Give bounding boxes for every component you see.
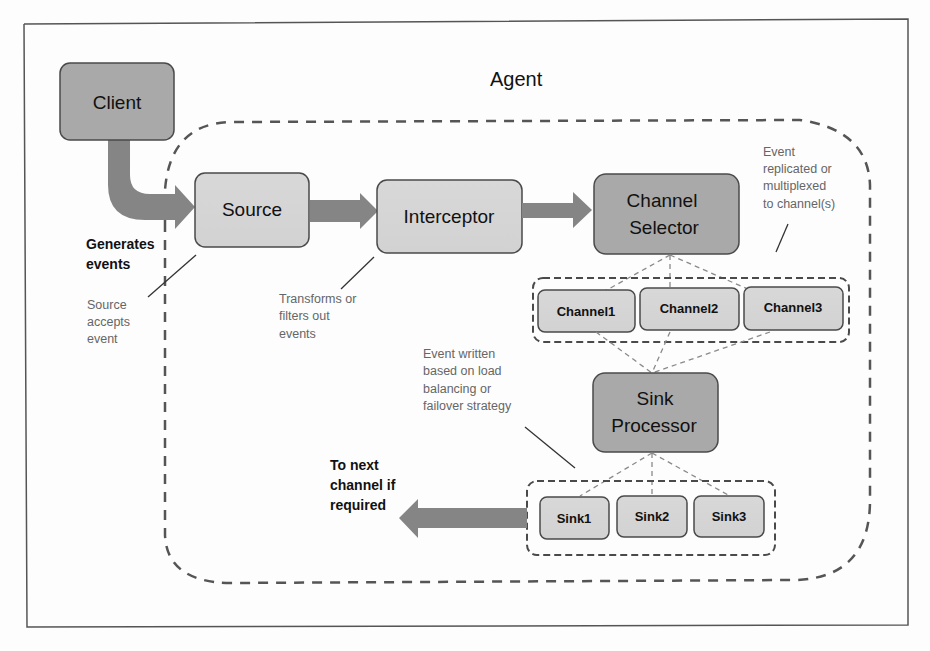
svg-text:events: events	[86, 256, 131, 272]
svg-text:multiplexed: multiplexed	[763, 179, 826, 193]
sink-2-label: Sink2	[635, 509, 670, 524]
to-next-channel-annotation: To next channel if required	[330, 457, 396, 513]
client-label: Client	[93, 92, 142, 113]
svg-text:based on load: based on load	[423, 364, 502, 378]
agent-label: Agent	[490, 68, 543, 90]
generates-events-annotation: Generates events	[86, 236, 155, 272]
sink-processor-label-line2: Processor	[611, 415, 697, 436]
transforms-annotation: Transforms or filters out events	[279, 292, 356, 341]
channel-2-label: Channel2	[660, 301, 719, 316]
client-node: Client	[60, 63, 174, 140]
channel-3-label: Channel3	[764, 300, 823, 315]
client-to-source-arrow	[108, 140, 195, 229]
source-node: Source	[195, 173, 309, 247]
channel-2-node: Channel2	[640, 288, 739, 330]
svg-text:events: events	[279, 327, 316, 341]
svg-text:Event written: Event written	[423, 347, 495, 361]
channel-selector-node: Channel Selector	[594, 174, 739, 254]
svg-text:Generates: Generates	[86, 236, 155, 252]
interceptor-node: Interceptor	[377, 180, 522, 253]
channel-selector-label-line2: Selector	[629, 217, 699, 238]
channel-3-node: Channel3	[744, 287, 843, 330]
sink-processor-label-line1: Sink	[637, 388, 674, 409]
svg-text:replicated or: replicated or	[763, 162, 832, 176]
channel-1-label: Channel1	[557, 304, 616, 319]
sink-3-node: Sink3	[694, 496, 764, 537]
channel-selector-label-line1: Channel	[627, 190, 698, 211]
svg-text:Source: Source	[87, 298, 127, 312]
svg-text:required: required	[330, 497, 386, 513]
svg-text:To next: To next	[330, 457, 379, 473]
replicated-annotation: Event replicated or multiplexed to chann…	[763, 145, 835, 211]
to-next-channel-arrow	[399, 499, 527, 538]
selector-channel-connectors	[605, 255, 750, 291]
svg-text:failover strategy: failover strategy	[423, 399, 512, 413]
svg-text:accepts: accepts	[87, 315, 130, 329]
source-to-interceptor-arrow	[310, 193, 378, 229]
svg-text:filters out: filters out	[279, 309, 330, 323]
channel-processor-connectors	[596, 332, 770, 373]
svg-text:Transforms or: Transforms or	[279, 292, 356, 306]
sink-2-node: Sink2	[617, 496, 687, 537]
svg-text:Event: Event	[763, 145, 795, 159]
channel-1-node: Channel1	[538, 290, 635, 332]
source-label: Source	[222, 199, 282, 220]
svg-text:channel if: channel if	[330, 477, 396, 493]
svg-text:to channel(s): to channel(s)	[763, 197, 835, 211]
sink-1-node: Sink1	[540, 497, 609, 539]
interceptor-label: Interceptor	[404, 206, 495, 227]
svg-text:event: event	[87, 332, 118, 346]
flume-agent-diagram: Agent Client Source Interceptor Channel …	[0, 0, 930, 651]
event-written-annotation: Event written based on load balancing or…	[423, 347, 512, 413]
sink-1-label: Sink1	[557, 511, 592, 526]
svg-text:balancing or: balancing or	[423, 382, 491, 396]
sink-processor-node: Sink Processor	[593, 373, 718, 452]
source-accepts-annotation: Source accepts event	[87, 298, 130, 346]
sink-3-label: Sink3	[712, 509, 747, 524]
interceptor-to-selector-arrow	[522, 192, 592, 228]
processor-sink-connectors	[580, 453, 730, 496]
